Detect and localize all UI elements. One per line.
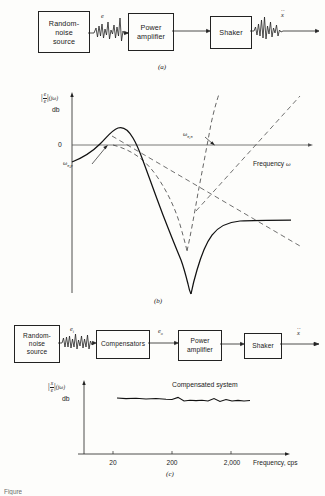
panel-label-b: (b) [148, 297, 168, 305]
panel-c-x-axis-arrow [285, 452, 290, 455]
figure-caption: Figure [4, 488, 22, 495]
arrow-into-compensators [93, 341, 97, 344]
figure-root: Random- noise source Power amplifier Sha… [0, 0, 325, 496]
panel-b-y-axis-arrow [70, 92, 73, 97]
arrow-output-c [314, 342, 319, 345]
noise-waveform-a [94, 18, 126, 41]
panel-b-x-axis-arrow [308, 143, 313, 146]
panel-c-plot [0, 378, 325, 468]
series-uncompensated-response-right [191, 220, 291, 294]
series-asymptote-rising-dashed [196, 96, 300, 211]
panel-c-connectors [0, 320, 325, 370]
panel-c-y-axis-arrow [82, 380, 85, 385]
series-zero-branch-dashed-falling [113, 145, 187, 251]
output-waveform-a [254, 17, 283, 39]
arrow-into-power-amplifier-c [175, 341, 179, 344]
noise-waveform-c [62, 334, 94, 349]
arrow-into-power-amplifier [125, 31, 129, 34]
arrow-output-a [316, 29, 320, 32]
panel-a-connectors [0, 0, 325, 70]
panel-label-c: (c) [160, 470, 180, 478]
leader-arrow-omega-n-p [103, 145, 108, 149]
arrow-into-shaker-c [241, 342, 245, 345]
series-zero-branch-dashed-rising [187, 94, 219, 251]
panel-b-plot [0, 88, 325, 303]
series-compensated-system-response [117, 397, 250, 401]
series-uncompensated-response-left [72, 128, 191, 294]
panel-label-a: (a) [152, 63, 172, 71]
arrow-into-shaker [207, 29, 211, 32]
